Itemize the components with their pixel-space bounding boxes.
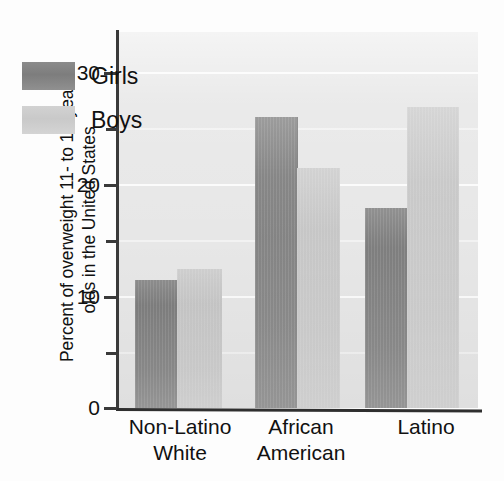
y-tick-5	[106, 352, 117, 355]
boys-swatch-icon	[22, 106, 75, 134]
legend-label-boys: Boys	[91, 109, 142, 132]
bar-girls-african-american	[255, 117, 298, 408]
bar-girls-latino	[365, 208, 408, 408]
x-category-non-latino-white: Non-Latino White	[110, 414, 250, 466]
y-tick-20	[104, 184, 117, 187]
legend-item-boys: Boys	[22, 98, 232, 142]
y-tick-label-20: 20	[0, 174, 100, 195]
y-tick-10	[104, 296, 117, 299]
legend-label-girls: Girls	[91, 65, 138, 88]
bar-boys-african-american	[297, 168, 340, 408]
x-axis-label-group: Non-Latino White African American Latino	[118, 414, 484, 478]
x-category-latino: Latino	[366, 414, 486, 440]
y-tick-label-0: 0	[0, 397, 100, 418]
bar-boys-non-latino-white	[177, 269, 222, 408]
legend-item-girls: Girls	[22, 54, 232, 98]
bar-chart-figure: Percent of overweight 11- to 14-year- ol…	[0, 0, 504, 481]
y-tick-0	[104, 407, 117, 410]
legend: Girls Boys	[22, 54, 232, 142]
x-category-african-american: African American	[236, 414, 366, 466]
y-tick-15	[106, 240, 117, 243]
girls-swatch-icon	[22, 62, 75, 90]
bar-boys-latino	[407, 107, 459, 408]
bar-girls-non-latino-white	[135, 280, 178, 408]
x-axis-line	[116, 408, 482, 413]
y-tick-label-10: 10	[0, 286, 100, 307]
